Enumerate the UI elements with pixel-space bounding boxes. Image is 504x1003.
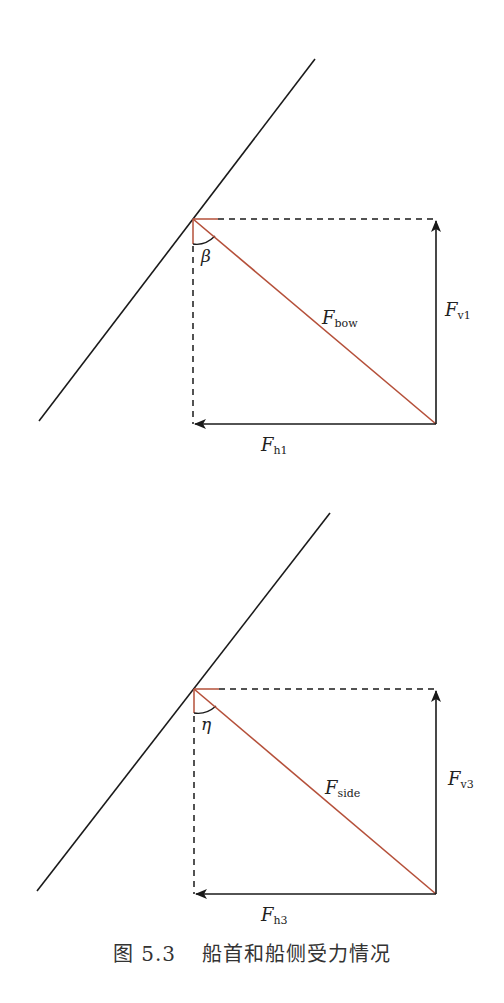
vertical-force-label: Fv1 (444, 299, 471, 322)
vertical-force-label: Fv3 (447, 768, 474, 791)
side-force-diagram: η Fside Fv3 Fh3 (37, 513, 474, 927)
angle-arc (193, 236, 215, 244)
angle-arc (194, 706, 216, 713)
hull-line (37, 513, 330, 891)
figure-number: 图 5.3 (113, 942, 176, 966)
horizontal-force-label: Fh3 (260, 904, 288, 927)
resultant-force-label: Fbow (321, 307, 358, 330)
horizontal-force-label: Fh1 (260, 434, 288, 457)
angle-label: β (200, 246, 211, 266)
hull-line (39, 59, 315, 421)
resultant-force-arrow (193, 219, 436, 424)
bow-force-diagram: β Fbow Fv1 Fh1 (39, 59, 471, 457)
figure-title: 船首和船侧受力情况 (202, 942, 391, 966)
resultant-force-label: Fside (324, 777, 360, 800)
angle-label: η (201, 714, 212, 734)
figure-caption: 图 5.3船首和船侧受力情况 (0, 938, 504, 967)
force-diagram-canvas: β Fbow Fv1 Fh1 η Fside Fv3 Fh3 (0, 0, 504, 1003)
resultant-force-arrow (194, 689, 436, 894)
